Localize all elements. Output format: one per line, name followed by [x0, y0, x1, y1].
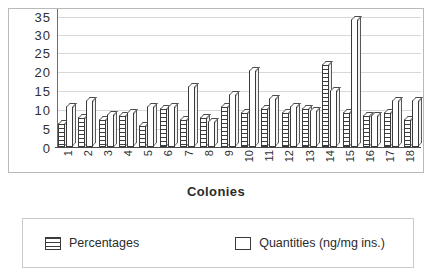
legend-swatch-white-icon — [235, 237, 251, 250]
bar-slot — [330, 9, 338, 147]
bar-group — [282, 9, 298, 147]
legend-swatch-hatched-icon — [45, 237, 61, 250]
y-tick-label: 20 — [35, 65, 51, 80]
bar-slot — [343, 9, 351, 147]
bar-percentages — [241, 112, 248, 147]
bar-quantities — [107, 114, 114, 148]
bar-percentages — [119, 115, 126, 147]
bar-slot — [249, 9, 257, 147]
bar-quantities — [392, 100, 399, 147]
bar-group — [99, 9, 115, 147]
bar-percentages — [99, 119, 106, 147]
bar-groups — [57, 9, 421, 147]
bar-slot — [404, 9, 412, 147]
legend-entry-quantities: Quantities (ng/mg ins.) — [235, 236, 385, 250]
bar-quantities — [269, 98, 276, 147]
x-tick-label: 10 — [243, 150, 255, 162]
y-tick-label: 15 — [35, 84, 51, 99]
x-tick: 12 — [280, 150, 299, 182]
x-tick: 7 — [179, 150, 198, 182]
bar-percentages — [302, 108, 309, 147]
legend: Percentages Quantities (ng/mg ins.) — [22, 218, 414, 268]
x-tick-label: 12 — [283, 150, 295, 162]
x-tick: 2 — [78, 150, 97, 182]
bar-slot — [180, 9, 188, 147]
bar-slot — [392, 9, 400, 147]
bar-percentages — [139, 125, 146, 147]
bar-slot — [86, 9, 94, 147]
x-tick-label: 4 — [122, 150, 134, 156]
x-tick: 13 — [300, 150, 319, 182]
bar-quantities — [147, 106, 154, 147]
bar-group — [221, 9, 237, 147]
bar-quantities — [127, 112, 134, 147]
bar-slot — [168, 9, 176, 147]
x-tick: 9 — [219, 150, 238, 182]
y-tick-label: 10 — [35, 103, 51, 118]
bar-slot — [221, 9, 229, 147]
bar-group — [180, 9, 196, 147]
bar-slot — [371, 9, 379, 147]
x-tick: 10 — [240, 150, 259, 182]
bar-slot — [127, 9, 135, 147]
bar-percentages — [384, 112, 391, 147]
bar-group — [384, 9, 400, 147]
plot-frame: 35 30 25 20 15 10 5 0 123456789101112131… — [8, 8, 424, 173]
x-tick-label: 17 — [384, 150, 396, 162]
x-tick-label: 14 — [324, 150, 336, 162]
x-tick: 18 — [401, 150, 420, 182]
y-tick-label: 25 — [35, 46, 51, 61]
x-tick-label: 18 — [404, 150, 416, 162]
bar-slot — [310, 9, 318, 147]
bar-slot — [261, 9, 269, 147]
bar-percentages — [363, 115, 370, 147]
bar-percentages — [343, 112, 350, 147]
y-tick-label: 5 — [43, 122, 51, 137]
y-tick-label: 0 — [43, 141, 51, 156]
bar-quantities — [86, 100, 93, 147]
bar-percentages — [322, 64, 329, 147]
x-tick: 1 — [58, 150, 77, 182]
bar-slot — [188, 9, 196, 147]
bar-percentages — [221, 106, 228, 147]
bar-slot — [282, 9, 290, 147]
bar-percentages — [261, 108, 268, 147]
bar-slot — [147, 9, 155, 147]
legend-label-quantities: Quantities (ng/mg ins.) — [259, 236, 385, 250]
bar-group — [343, 9, 359, 147]
bar-slot — [384, 9, 392, 147]
bar-group — [241, 9, 257, 147]
bar-percentages — [78, 117, 85, 147]
bar-slot — [302, 9, 310, 147]
bar-slot — [99, 9, 107, 147]
bar-slot — [107, 9, 115, 147]
bar-percentages — [282, 112, 289, 147]
bar-group — [302, 9, 318, 147]
x-tick-label: 3 — [102, 150, 114, 156]
bar-slot — [290, 9, 298, 147]
bar-group — [139, 9, 155, 147]
x-axis-baseline — [55, 147, 421, 148]
bar-group — [200, 9, 216, 147]
legend-label-percentages: Percentages — [69, 236, 139, 250]
bar-slot — [66, 9, 74, 147]
x-tick: 3 — [98, 150, 117, 182]
bar-quantities — [330, 90, 337, 147]
x-tick-label: 13 — [304, 150, 316, 162]
bar-slot — [412, 9, 420, 147]
x-tick-label: 2 — [82, 150, 94, 156]
bar-quantities — [371, 115, 378, 147]
bar-quantities — [66, 106, 73, 147]
y-tick-label: 35 — [35, 10, 51, 25]
bar-group — [261, 9, 277, 147]
x-tick: 8 — [199, 150, 218, 182]
bar-slot — [363, 9, 371, 147]
bar-quantities — [168, 106, 175, 147]
bar-slot — [139, 9, 147, 147]
bar-percentages — [58, 123, 65, 147]
bar-quantities — [310, 110, 317, 147]
bar-slot — [241, 9, 249, 147]
bar-slot — [322, 9, 330, 147]
bar-slot — [160, 9, 168, 147]
x-tick-label: 6 — [162, 150, 174, 156]
